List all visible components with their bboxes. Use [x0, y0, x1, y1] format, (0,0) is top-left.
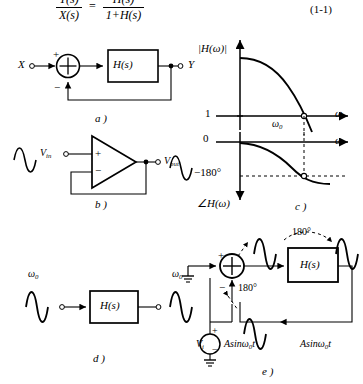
fig-b-input-label-sub: in — [46, 152, 51, 159]
fig-c-magnitude-x-axis-label: ω — [335, 107, 343, 119]
fig-b-input-node — [64, 152, 69, 157]
fig-b-caption: b ) — [95, 198, 107, 210]
fig-c-phase-tick-180: −180° — [194, 166, 221, 178]
fig-b-opamp-plus-sign: + — [95, 147, 101, 159]
fig-e-feedback-signal-text: Asinω — [300, 338, 325, 349]
fig-e-sum-output-waveform — [254, 239, 276, 269]
fig-d-input-frequency-text: ω — [28, 268, 35, 279]
equation-lhs-denominator: X(s) — [56, 8, 82, 23]
fig-c-phase-tick-zero: 0 — [203, 132, 209, 144]
fig-e-feedback-signal-tail: t — [328, 338, 331, 349]
fig-c-caption: c ) — [295, 200, 306, 212]
figure-page: Y(s) X(s) = H(s) 1+H(s) (1-1) — [0, 0, 363, 384]
fig-e-caption: e ) — [262, 365, 273, 377]
fig-e-source-minus-sign: − — [212, 344, 218, 355]
fig-a-output-label: Y — [188, 58, 194, 70]
fig-c-phase-x-axis-label: ω — [335, 134, 343, 146]
fig-a-sum-plus-sign: + — [53, 48, 59, 60]
fig-b-input-waveform — [14, 148, 36, 172]
fig-d-input-frequency-label: ω0 — [28, 268, 38, 280]
fig-e-output-waveform — [336, 239, 358, 269]
fig-c-magnitude-w0-text: ω — [272, 118, 279, 129]
fig-a-caption: a ) — [95, 112, 107, 124]
fig-e-sum-output-pointer-dashed — [238, 242, 248, 256]
fig-d-caption: d ) — [93, 352, 105, 364]
fig-b-output-node — [156, 160, 161, 165]
fig-d-input-waveform — [26, 292, 48, 322]
equation-rhs-numerator: H(s) — [103, 0, 144, 8]
fig-d-input-node — [60, 305, 65, 310]
fig-e-source-signal-tail: t — [252, 338, 255, 349]
fig-e-feedback-pointer-dashed — [228, 296, 238, 310]
fig-c-magnitude-tick-one: 1 — [205, 107, 211, 119]
fig-e-phase-shift-bottom-label: 180° — [238, 282, 257, 293]
fig-d-input-frequency-sub: 0 — [35, 273, 38, 280]
fig-b-output-label-sub: out — [170, 160, 179, 167]
fig-e-source-signal-label: Asinω0t — [224, 338, 255, 350]
fig-e-source-signal-text: Asinω — [224, 338, 249, 349]
fig-c-magnitude-w0-tick: ω0 — [272, 118, 282, 130]
fig-e-phase-shift-top-label: 180° — [292, 226, 311, 237]
equation-1-1: Y(s) X(s) = H(s) 1+H(s) — [56, 0, 144, 23]
fig-d-block-label: H(s) — [100, 299, 120, 311]
fig-c-magnitude-w0-sub: 0 — [279, 123, 282, 130]
equation-equals: = — [89, 0, 96, 13]
fig-d-output-frequency-text: ω — [172, 268, 179, 279]
fig-c-phase-curve — [240, 143, 330, 184]
fig-e-sum-plus-sign: + — [218, 249, 224, 261]
fig-b-input-label: Vin — [40, 147, 51, 159]
fig-e-source-plus-sign: + — [212, 325, 218, 336]
equation-lhs-numerator: Y(s) — [56, 0, 82, 8]
fig-c-phase-w0-marker — [301, 173, 306, 178]
equation-number: (1-1) — [310, 3, 332, 15]
fig-a-sum-minus-sign: − — [54, 81, 60, 93]
fig-c-magnitude-axis-label: |H(ω)| — [198, 42, 227, 54]
fig-b-output-label: Vout — [164, 155, 179, 167]
equation-rhs-denominator: 1+H(s) — [103, 8, 144, 23]
fig-a-block-label: H(s) — [113, 58, 133, 70]
fig-a-output-node — [178, 64, 183, 69]
fig-b-opamp-body — [92, 136, 136, 188]
equation-rhs-fraction: H(s) 1+H(s) — [103, 0, 144, 23]
fig-e-block-label: H(s) — [300, 258, 320, 270]
equation-lhs-fraction: Y(s) X(s) — [56, 0, 82, 23]
fig-a-input-label: X — [18, 58, 25, 70]
fig-e-diagram — [180, 226, 363, 376]
fig-e-sum-minus-sign: − — [219, 281, 225, 293]
fig-c-phase-axis-label: ∠H(ω) — [197, 197, 230, 210]
fig-a-input-node — [30, 64, 35, 69]
fig-b-opamp-minus-sign: − — [95, 164, 101, 176]
fig-d-output-node — [156, 305, 161, 310]
fig-e-source-label: Vi — [196, 338, 204, 350]
fig-e-feedback-to-source-wire — [240, 302, 280, 322]
fig-e-source-label-sub: i — [202, 343, 204, 350]
fig-a-diagram — [8, 42, 198, 118]
fig-e-feedback-signal-label: Asinω0t — [300, 338, 331, 350]
